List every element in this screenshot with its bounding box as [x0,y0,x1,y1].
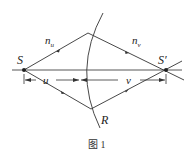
label-n-right: nv [132,34,142,49]
label-n-left: nu [45,34,55,49]
label-v: v [126,74,131,86]
ray-arrow-icon [61,91,65,94]
label-radius: R [100,113,109,127]
u-arrow-right-icon [73,78,79,82]
figure-caption: 图 1 [88,139,106,150]
refraction-diagram: S S′ R nu nv u v 图 1 [0,0,195,162]
image-point [164,68,168,72]
source-point [22,68,26,72]
ray-bottom-refracted [91,61,182,109]
label-source: S [17,53,23,67]
u-arrow-left-icon [25,78,31,82]
label-u: u [43,74,49,86]
ray-bottom-incident [24,70,91,109]
v-arrow-right-icon [159,78,165,82]
refracting-surface-arc [87,13,103,128]
label-image: S′ [158,53,167,67]
